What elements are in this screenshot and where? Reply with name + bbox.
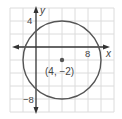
center-point [60, 58, 64, 62]
x-axis-left-arrow-icon [12, 45, 19, 50]
x-axis-label: x [105, 48, 112, 59]
coordinate-plane: y x 4 8 −8 (4, −2) [0, 0, 122, 119]
y-axis-label: y [39, 5, 46, 16]
y-tick-label-4: 4 [27, 15, 32, 26]
y-tick-label-neg8: −8 [23, 94, 34, 105]
x-axis [12, 45, 110, 50]
x-tick-label-8: 8 [85, 48, 90, 59]
y-axis-down-arrow-icon [34, 107, 39, 114]
center-point-label: (4, −2) [45, 66, 74, 77]
y-axis-up-arrow-icon [34, 6, 39, 13]
